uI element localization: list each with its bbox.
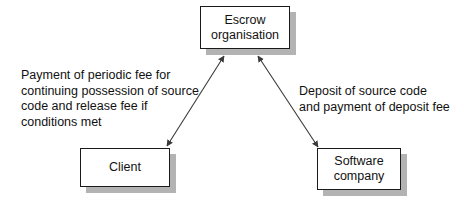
escrow-diagram: Escrow organisation Client Software comp…	[0, 0, 464, 211]
node-client-label: Client	[105, 160, 145, 175]
node-escrow-organisation-label: Escrow organisation	[207, 13, 283, 43]
node-client[interactable]: Client	[80, 148, 170, 187]
edge-label-escrow-software: Deposit of source code and payment of de…	[299, 84, 464, 115]
node-escrow-organisation[interactable]: Escrow organisation	[200, 6, 290, 49]
edge-label-escrow-client: Payment of periodic fee for continuing p…	[21, 68, 201, 130]
node-software-company-label: Software company	[330, 154, 389, 184]
node-software-company[interactable]: Software company	[317, 148, 401, 190]
